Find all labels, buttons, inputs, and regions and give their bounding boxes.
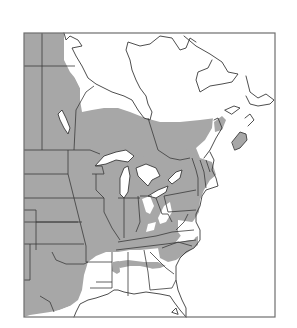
range-map bbox=[0, 0, 297, 328]
